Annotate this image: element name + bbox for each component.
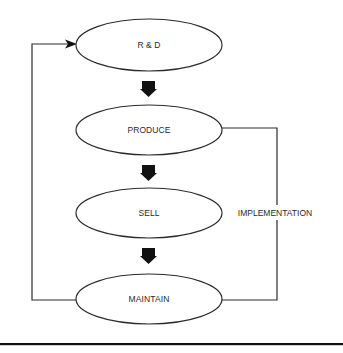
node-sell: SELL bbox=[76, 188, 222, 238]
block-arrow-down-icon bbox=[140, 81, 157, 97]
node-label-produce: PRODUCE bbox=[127, 125, 170, 135]
block-arrow-down-icon bbox=[140, 248, 157, 264]
node-label-maintain: MAINTAIN bbox=[129, 294, 170, 304]
edge-label-implementation: IMPLEMENTATION bbox=[238, 208, 312, 218]
bottom-rule bbox=[0, 343, 343, 345]
edge-maintain-to-rd bbox=[32, 40, 77, 301]
flowchart-diagram: IMPLEMENTATION R & D PRODUCE SELL MAINTA… bbox=[0, 0, 343, 353]
edge-produce-to-maintain: IMPLEMENTATION bbox=[222, 128, 312, 300]
node-label-rd: R & D bbox=[137, 40, 160, 50]
node-label-sell: SELL bbox=[138, 208, 159, 218]
node-rd: R & D bbox=[76, 19, 222, 71]
block-arrow-down-icon bbox=[140, 165, 157, 181]
node-maintain: MAINTAIN bbox=[76, 274, 222, 324]
node-produce: PRODUCE bbox=[76, 105, 222, 155]
